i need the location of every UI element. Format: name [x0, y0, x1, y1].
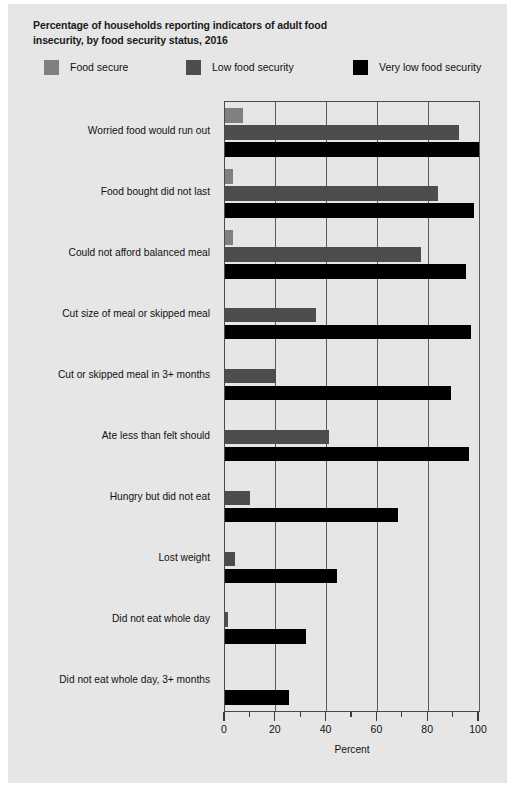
category-label: Ate less than felt should: [30, 430, 210, 443]
x-tick-minor: [300, 712, 301, 717]
category-label: Worried food would run out: [30, 125, 210, 138]
x-tick-label: 20: [269, 723, 281, 735]
x-tick-major: [223, 712, 224, 721]
bar: [225, 629, 306, 644]
x-tick-label: 80: [421, 723, 433, 735]
bar: [225, 142, 479, 157]
legend-item-very-low-food-security: Very low food security: [353, 56, 481, 78]
x-tick-minor: [452, 712, 453, 717]
bar: [225, 203, 474, 218]
legend-swatch-very-low-food-security: [353, 60, 368, 75]
bar: [225, 447, 469, 462]
bar: [225, 230, 233, 245]
value-axis: Percent 020406080100: [224, 712, 480, 762]
x-axis-title: Percent: [224, 744, 480, 755]
category-label: Did not eat whole day, 3+ months: [30, 673, 210, 686]
bar: [225, 612, 228, 627]
legend-swatch-food-secure: [44, 60, 59, 75]
x-tick-minor: [249, 712, 250, 717]
chart-title: Percentage of households reporting indic…: [33, 18, 363, 48]
category-label: Food bought did not last: [30, 186, 210, 199]
x-tick-label: 0: [221, 723, 227, 735]
chart-legend: Food secure Low food security Very low f…: [36, 56, 496, 78]
x-tick-major: [376, 712, 377, 721]
x-tick-label: 60: [371, 723, 383, 735]
x-tick-major: [274, 712, 275, 721]
category-label: Cut or skipped meal in 3+ months: [30, 369, 210, 382]
bar: [225, 690, 289, 705]
bar: [225, 186, 438, 201]
category-axis-labels: Worried food would run outFood bought di…: [28, 101, 218, 712]
category-label: Cut size of meal or skipped meal: [30, 308, 210, 321]
bar: [225, 369, 276, 384]
bar: [225, 491, 250, 506]
bar: [225, 125, 459, 140]
legend-item-food-secure: Food secure: [44, 56, 128, 78]
plot-area: [224, 101, 480, 712]
legend-swatch-low-food-security: [186, 60, 201, 75]
category-label: Did not eat whole day: [30, 612, 210, 625]
legend-label-food-secure: Food secure: [70, 61, 128, 73]
bar: [225, 169, 233, 184]
category-label: Could not afford balanced meal: [30, 247, 210, 260]
bar: [225, 325, 471, 340]
x-tick-minor: [401, 712, 402, 717]
category-label: Lost weight: [30, 551, 210, 564]
bar: [225, 264, 466, 279]
bar: [225, 247, 421, 262]
chart-figure: Percentage of households reporting indic…: [8, 4, 507, 783]
x-tick-major: [325, 712, 326, 721]
x-tick-minor: [350, 712, 351, 717]
bar: [225, 430, 329, 445]
bar: [225, 552, 235, 567]
bar: [225, 508, 398, 523]
category-label: Hungry but did not eat: [30, 490, 210, 503]
x-tick-label: 100: [469, 723, 487, 735]
legend-item-low-food-security: Low food security: [186, 56, 294, 78]
x-tick-major: [477, 712, 478, 721]
x-tick-label: 40: [320, 723, 332, 735]
x-tick-major: [427, 712, 428, 721]
bar: [225, 108, 243, 123]
bar: [225, 386, 451, 401]
bar-series-layer: [225, 102, 479, 711]
bar: [225, 569, 337, 584]
legend-label-low-food-security: Low food security: [212, 61, 294, 73]
legend-label-very-low-food-security: Very low food security: [379, 61, 481, 73]
bar: [225, 308, 316, 323]
